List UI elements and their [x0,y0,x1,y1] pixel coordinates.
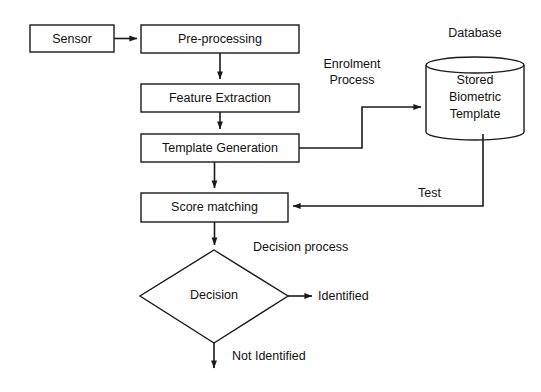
node-database-label-line1: Stored [457,73,494,87]
database-title-label: Database [448,26,502,40]
node-score-matching[interactable]: Score matching [141,193,288,222]
not-identified-label: Not Identified [232,349,306,363]
node-pre-processing-label: Pre-processing [178,32,262,46]
enrolment-process-label-line1: Enrolment [324,57,381,71]
identified-label: Identified [318,289,369,303]
node-template-generation[interactable]: Template Generation [141,134,299,162]
node-feature-extraction[interactable]: Feature Extraction [141,84,299,112]
test-label: Test [418,186,441,200]
decision-process-label: Decision process [253,240,348,254]
node-decision[interactable]: Decision [140,250,288,343]
node-sensor[interactable]: Sensor [30,25,114,52]
flowchart-diagram: Sensor Pre-processing Feature Extraction… [0,0,541,392]
node-database-label-line3: Template [450,107,501,121]
node-template-generation-label: Template Generation [162,141,278,155]
node-score-matching-label: Score matching [171,200,258,214]
node-pre-processing[interactable]: Pre-processing [141,25,299,53]
node-database[interactable]: Stored Biometric Template [426,57,524,140]
node-database-label-line2: Biometric [449,90,501,104]
enrolment-process-label-line2: Process [329,73,374,87]
node-decision-label: Decision [190,288,238,302]
edge-template-generation-to-database [299,107,421,148]
edge-database-to-score-matching [293,134,483,206]
node-sensor-label: Sensor [52,32,92,46]
node-feature-extraction-label: Feature Extraction [169,91,271,105]
